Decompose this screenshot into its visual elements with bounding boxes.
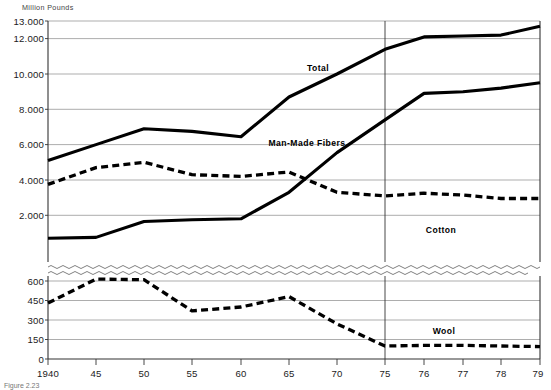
x-tick-60: 60 — [235, 368, 246, 379]
x-tick-75: 75 — [379, 368, 390, 379]
series-label-man-made-fibers: Man-Made Fibers — [269, 138, 346, 148]
y-tick-10000: 10.000 — [13, 69, 44, 80]
y-axis-unit-label: Million Pounds — [22, 3, 74, 12]
series-line-wool — [48, 279, 540, 347]
series-line-cotton — [48, 162, 540, 198]
axis-break-wave — [48, 266, 540, 275]
x-tick-65: 65 — [283, 368, 294, 379]
y-tick-450: 450 — [27, 295, 44, 306]
x-tick-79: 79 — [532, 368, 543, 379]
y-tick-12000: 12.000 — [13, 33, 44, 44]
x-tick-76: 76 — [418, 368, 429, 379]
x-tick-78: 78 — [495, 368, 506, 379]
y-tick-150: 150 — [27, 334, 44, 345]
y-tick-13000: 13.000 — [13, 16, 44, 27]
y-tick-0: 0 — [38, 354, 44, 365]
x-tick-50: 50 — [138, 368, 149, 379]
x-tick-45: 45 — [90, 368, 101, 379]
y-tick-600: 600 — [27, 276, 44, 287]
y-tick-2000: 2.000 — [19, 210, 44, 221]
series-label-total: Total — [307, 63, 329, 73]
series-label-wool: Wool — [433, 326, 456, 336]
x-tick-1940: 1940 — [37, 368, 59, 379]
textile-consumption-line-chart: Million Pounds 13.000 12.000 10.000 8.00… — [0, 0, 551, 390]
y-tick-4000: 4.000 — [19, 175, 44, 186]
y-tick-300: 300 — [27, 315, 44, 326]
x-tick-70: 70 — [331, 368, 342, 379]
x-axis-tickmarks — [48, 359, 540, 365]
y-tick-6000: 6.000 — [19, 139, 44, 150]
y-tick-8000: 8.000 — [19, 104, 44, 115]
x-tick-55: 55 — [186, 368, 197, 379]
chart-figure: Million Pounds 13.000 12.000 10.000 8.00… — [0, 0, 551, 390]
series-label-cotton: Cotton — [426, 225, 456, 235]
figure-source-note: Figure 2.23 — [4, 382, 40, 390]
x-tick-77: 77 — [457, 368, 468, 379]
